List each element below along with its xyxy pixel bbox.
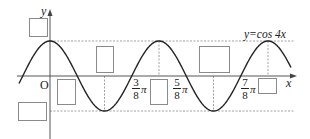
box-first-zero[interactable]: [57, 79, 76, 105]
tick-label-3-8-pi: 3 8 π: [132, 77, 147, 100]
box-first-trough[interactable]: [96, 46, 114, 73]
pi-symbol: π: [141, 83, 147, 95]
pi-symbol: π: [182, 83, 188, 95]
x-axis-label: x: [286, 77, 291, 89]
origin-label: O: [40, 79, 49, 91]
tick-numerator: 3: [133, 77, 139, 87]
tick-denominator: 8: [174, 90, 180, 100]
tick-denominator: 8: [242, 90, 248, 100]
box-min-y[interactable]: [18, 102, 47, 121]
function-label: y=cos 4x: [244, 29, 286, 41]
box-period[interactable]: [258, 78, 277, 94]
tick-denominator: 8: [133, 90, 139, 100]
y-axis-arrow-icon: [48, 9, 53, 16]
tick-label-5-8-pi: 5 8 π: [173, 77, 188, 100]
tick-label-7-8-pi: 7 8 π: [241, 77, 256, 100]
box-second-trough[interactable]: [199, 46, 230, 73]
tick-numerator: 7: [242, 77, 248, 87]
box-between[interactable]: [150, 79, 168, 105]
y-axis-label: y: [41, 5, 46, 17]
tick-numerator: 5: [174, 77, 180, 87]
box-max-y[interactable]: [29, 18, 48, 37]
cosine-graph-figure: y x O y=cos 4x 3 8 π 5 8 π 7 8 π: [0, 0, 310, 139]
pi-symbol: π: [250, 83, 256, 95]
